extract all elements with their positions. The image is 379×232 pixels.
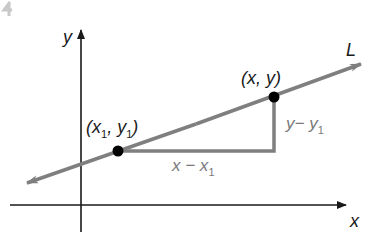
point-y1-subscript: 1 bbox=[126, 128, 132, 140]
point-x1-subscript: 1 bbox=[101, 128, 107, 140]
point-x1-y1-label-close: ) bbox=[132, 117, 138, 137]
y-axis-label: y bbox=[63, 28, 72, 46]
vertical-leg-label: y− y1 bbox=[286, 115, 324, 132]
point-x1-y1 bbox=[113, 146, 124, 157]
x-axis-label: x bbox=[350, 212, 359, 230]
horizontal-leg-label-subscript: 1 bbox=[208, 166, 214, 178]
horizontal-leg-label-main: x − x bbox=[172, 156, 208, 175]
point-x1-y1-label-mid: , y bbox=[107, 117, 126, 137]
horizontal-leg-label: x − x1 bbox=[172, 157, 215, 174]
point-x1-y1-label-open: (x bbox=[86, 117, 101, 137]
point-x-y-label: (x, y) bbox=[241, 69, 281, 87]
point-x-y bbox=[269, 92, 280, 103]
cropped-page-mark-icon bbox=[0, 0, 14, 20]
line-L-label: L bbox=[346, 41, 356, 59]
vertical-leg-label-subscript: 1 bbox=[318, 124, 324, 136]
point-x1-y1-label: (x1, y1) bbox=[86, 118, 138, 136]
vertical-leg-label-main: y− y bbox=[286, 114, 318, 133]
